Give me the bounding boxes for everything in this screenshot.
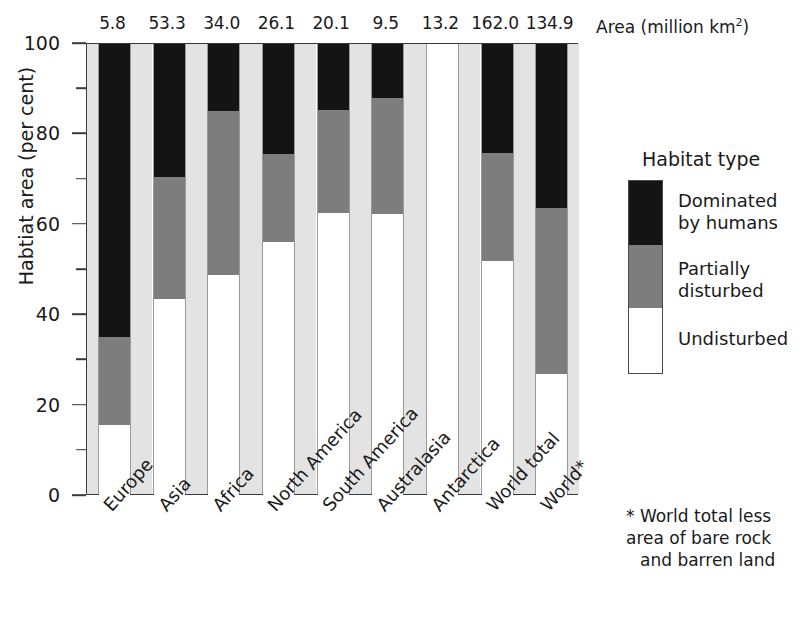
legend-swatch-partial bbox=[629, 245, 662, 307]
area-axis-title: Area (million km2) bbox=[596, 12, 749, 38]
area-value-row: 5.853.334.026.120.19.513.2162.0134.9 bbox=[85, 12, 580, 38]
segment-partially-disturbed bbox=[372, 98, 403, 214]
background-band bbox=[196, 44, 207, 494]
area-axis-title-text: Area (million km bbox=[596, 17, 736, 37]
y-axis-tick bbox=[72, 494, 86, 496]
background-band bbox=[415, 44, 426, 494]
bar-world[interactable] bbox=[535, 44, 568, 494]
y-axis-tick-label: 40 bbox=[36, 305, 60, 324]
segment-dominated-by-humans bbox=[99, 44, 130, 337]
y-axis-minor-tick bbox=[76, 449, 86, 451]
segment-dominated-by-humans bbox=[154, 44, 185, 177]
area-axis-title-close: ) bbox=[743, 17, 750, 37]
background-band bbox=[142, 44, 153, 494]
background-band bbox=[186, 44, 197, 494]
y-axis-tick-label: 0 bbox=[48, 486, 60, 505]
footnote-line: area of bare rock bbox=[626, 527, 806, 549]
segment-partially-disturbed bbox=[263, 154, 294, 241]
area-value: 162.0 bbox=[465, 12, 526, 34]
segment-dominated-by-humans bbox=[372, 44, 403, 98]
y-axis-tick-label: 20 bbox=[36, 395, 60, 414]
legend-item-label: Partiallydisturbed bbox=[678, 258, 764, 302]
legend-item-line: disturbed bbox=[678, 280, 764, 302]
y-axis-tick-label: 60 bbox=[36, 214, 60, 233]
background-band bbox=[524, 44, 535, 494]
background-band bbox=[251, 44, 262, 494]
legend-item-line: by humans bbox=[678, 212, 778, 234]
y-axis: Habtiat area (per cent) 020406080100 bbox=[0, 43, 86, 495]
background-band bbox=[568, 44, 579, 494]
area-value: 13.2 bbox=[410, 12, 471, 34]
y-axis-minor-tick bbox=[76, 178, 86, 180]
segment-undisturbed bbox=[263, 242, 294, 496]
x-axis-labels: EuropeAsiaAfricaNorth AmericaSouth Ameri… bbox=[86, 497, 578, 617]
y-axis-minor-tick bbox=[76, 359, 86, 361]
y-axis-tick bbox=[72, 404, 86, 406]
background-band bbox=[514, 44, 525, 494]
area-value: 53.3 bbox=[137, 12, 198, 34]
bar-north-america[interactable] bbox=[262, 44, 295, 494]
segment-partially-disturbed bbox=[208, 111, 239, 275]
y-axis-tick bbox=[72, 223, 86, 225]
segment-dominated-by-humans bbox=[263, 44, 294, 154]
segment-partially-disturbed bbox=[99, 337, 130, 426]
segment-dominated-by-humans bbox=[482, 44, 513, 153]
y-axis-tick-label: 100 bbox=[24, 34, 60, 53]
area-axis-title-superscript: 2 bbox=[736, 16, 743, 29]
background-band bbox=[87, 44, 98, 494]
legend-title: Habitat type bbox=[642, 148, 806, 170]
segment-undisturbed bbox=[208, 275, 239, 496]
legend-body: Dominatedby humansPartiallydisturbedUndi… bbox=[628, 180, 806, 374]
bar-asia[interactable] bbox=[153, 44, 186, 494]
legend-swatch-dominated bbox=[629, 181, 662, 245]
footnote-line: * World total less bbox=[626, 505, 806, 527]
legend-item-line: Dominated bbox=[678, 190, 778, 212]
area-value: 34.0 bbox=[191, 12, 252, 34]
segment-partially-disturbed bbox=[318, 110, 349, 213]
bar-world-total[interactable] bbox=[481, 44, 514, 494]
footnote-line: and barren land bbox=[626, 549, 806, 571]
y-axis-title: Habtiat area (per cent) bbox=[15, 26, 37, 326]
y-axis-tick-label: 80 bbox=[36, 124, 60, 143]
area-value: 5.8 bbox=[82, 12, 143, 34]
background-band bbox=[131, 44, 142, 494]
area-value: 134.9 bbox=[519, 12, 580, 34]
legend-item-line: Undisturbed bbox=[678, 328, 788, 350]
background-band bbox=[470, 44, 481, 494]
background-band bbox=[306, 44, 317, 494]
segment-partially-disturbed bbox=[482, 153, 513, 261]
background-band bbox=[459, 44, 470, 494]
area-value: 9.5 bbox=[355, 12, 416, 34]
y-axis-minor-tick bbox=[76, 268, 86, 270]
footnote: * World total lessarea of bare rockand b… bbox=[626, 505, 806, 571]
bar-africa[interactable] bbox=[207, 44, 240, 494]
segment-partially-disturbed bbox=[536, 208, 567, 374]
y-axis-tick bbox=[72, 42, 86, 44]
y-axis-tick bbox=[72, 313, 86, 315]
legend-item-label: Dominatedby humans bbox=[678, 190, 778, 234]
background-band bbox=[360, 44, 371, 494]
segment-partially-disturbed bbox=[154, 177, 185, 299]
legend-item-line: Partially bbox=[678, 258, 764, 280]
segment-dominated-by-humans bbox=[318, 44, 349, 110]
legend-swatch-undisturbed bbox=[629, 308, 662, 373]
legend: Habitat type Dominatedby humansPartially… bbox=[628, 148, 806, 374]
legend-swatch bbox=[628, 180, 663, 374]
area-value: 20.1 bbox=[301, 12, 362, 34]
y-axis-minor-tick bbox=[76, 87, 86, 89]
legend-item-label: Undisturbed bbox=[678, 328, 788, 350]
segment-undisturbed bbox=[427, 44, 458, 496]
segment-undisturbed bbox=[154, 299, 185, 496]
bar-antarctica[interactable] bbox=[426, 44, 459, 494]
segment-dominated-by-humans bbox=[208, 44, 239, 111]
bar-europe[interactable] bbox=[98, 44, 131, 494]
background-band bbox=[295, 44, 306, 494]
y-axis-tick bbox=[72, 133, 86, 135]
area-value: 26.1 bbox=[246, 12, 307, 34]
background-band bbox=[240, 44, 251, 494]
segment-dominated-by-humans bbox=[536, 44, 567, 208]
